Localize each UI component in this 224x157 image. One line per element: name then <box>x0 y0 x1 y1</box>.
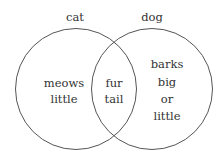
dog-item: or <box>161 92 174 106</box>
dog-item: big <box>158 75 177 89</box>
dog-item: little <box>153 109 180 123</box>
cat-label: cat <box>66 10 84 24</box>
intersection-item: tail <box>105 92 124 106</box>
dog-item: barks <box>151 57 184 71</box>
cat-item: meows <box>44 76 84 90</box>
dog-label: dog <box>141 10 163 24</box>
venn-diagram: cat dog meows little fur tail barks big … <box>0 0 224 157</box>
intersection-item: fur <box>105 76 123 90</box>
cat-item: little <box>50 92 77 106</box>
